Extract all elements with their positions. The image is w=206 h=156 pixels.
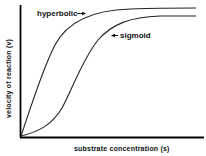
sigmoid-curve bbox=[21, 16, 196, 136]
hyperbolic-label: hyperbolic bbox=[37, 9, 78, 18]
y-axis-title: velocity of reaction (v) bbox=[5, 39, 13, 118]
hyperbolic-arrowhead-icon bbox=[82, 12, 86, 15]
x-axis-title: substrate concentration (s) bbox=[74, 145, 170, 153]
hyperbolic-curve bbox=[21, 8, 196, 136]
sigmoid-label: sigmoid bbox=[120, 31, 151, 40]
enzyme-kinetics-chart: hyperbolic sigmoid substrate concentrati… bbox=[0, 0, 206, 156]
